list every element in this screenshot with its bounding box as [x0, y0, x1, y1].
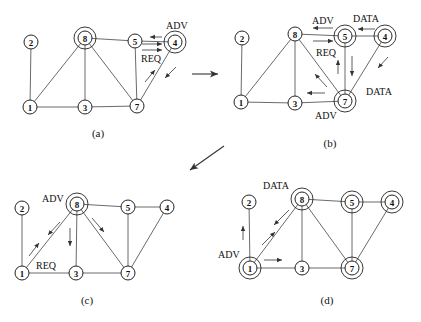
message-label-req: REQ: [36, 260, 57, 271]
node-label: 5: [350, 198, 355, 208]
edge-8-5: [295, 34, 345, 36]
node-label: 3: [293, 99, 298, 109]
node-label: 2: [20, 204, 25, 214]
node-label: 2: [29, 38, 34, 48]
message-arrow-icon: [145, 70, 155, 82]
edge-8-3: [76, 204, 77, 273]
node-label: 1: [248, 264, 253, 274]
node-label: 4: [173, 38, 178, 48]
message-arrow-icon: [92, 218, 104, 232]
node-2: 2: [15, 201, 29, 215]
node-3: 3: [288, 96, 302, 110]
node-label: 4: [165, 203, 170, 213]
message-arrow-icon: [274, 210, 289, 225]
node-7: 7: [130, 99, 144, 113]
node-1: 1: [23, 100, 37, 114]
node-2: 2: [24, 35, 38, 49]
edge-8-7: [302, 199, 352, 268]
message-arrow-icon: [378, 57, 388, 68]
node-label: 1: [239, 98, 244, 108]
node-label: 1: [28, 103, 33, 113]
edge-8-7: [77, 204, 128, 273]
node-5: 5: [128, 34, 142, 48]
node-1: 1: [234, 95, 248, 109]
node-3: 3: [78, 100, 92, 114]
message-label-adv: ADV: [312, 15, 334, 26]
panel-d: 1234578DATAADV(d): [218, 180, 403, 307]
node-label: 3: [74, 269, 79, 279]
node-label: 5: [133, 37, 138, 47]
edge-4-7: [128, 207, 167, 273]
node-2: 2: [242, 195, 256, 209]
panels-layer: 1234578ADVREQ(a)1234578ADVDATAREQDATAADV…: [15, 13, 403, 307]
panel-caption: (d): [321, 294, 334, 307]
edge-1-8: [30, 38, 85, 107]
node-label: 8: [293, 30, 298, 40]
node-label: 1: [20, 269, 25, 279]
edge-1-8: [250, 199, 302, 268]
message-label-data: DATA: [366, 86, 393, 97]
edge-3-7: [295, 101, 345, 103]
panel-c: 1234578ADVREQ(c): [15, 193, 174, 307]
node-1: 1: [15, 266, 29, 280]
node-label: 2: [247, 198, 252, 208]
message-label-adv: ADV: [42, 193, 64, 204]
node-label: 8: [75, 200, 80, 210]
edge-8-5: [302, 199, 352, 202]
node-5: 5: [121, 200, 135, 214]
edge-3-7: [85, 106, 137, 107]
edge-1-8: [241, 34, 295, 102]
node-label: 7: [343, 97, 348, 107]
node-label: 5: [343, 32, 348, 42]
node-label: 4: [390, 198, 395, 208]
node-label: 8: [83, 34, 88, 44]
node-label: 4: [383, 32, 388, 42]
message-label-adv: ADV: [166, 20, 188, 31]
message-label-req: REQ: [141, 53, 162, 64]
node-label: 7: [135, 102, 140, 112]
node-label: 3: [300, 264, 305, 274]
edge-1-2: [241, 38, 242, 102]
message-label-data: DATA: [353, 13, 380, 24]
message-arrow-icon: [315, 74, 327, 87]
node-7: 7: [121, 266, 135, 280]
panel-a: 1234578ADVREQ(a): [23, 20, 188, 140]
network-diagram: 1234578ADVREQ(a)1234578ADVDATAREQDATAADV…: [0, 0, 421, 322]
message-arrow-icon: [165, 67, 176, 78]
node-label: 2: [240, 34, 245, 44]
message-label-data: DATA: [263, 180, 290, 191]
edge-1-2: [249, 202, 250, 268]
message-label-adv: ADV: [218, 249, 240, 260]
node-label: 8: [300, 195, 305, 205]
panel-caption: (a): [92, 127, 105, 140]
transition-arrow-icon-b-to-c: [190, 146, 224, 170]
node-label: 3: [83, 103, 88, 113]
node-3: 3: [69, 266, 83, 280]
node-label: 5: [126, 203, 131, 213]
transition-arrows: [190, 74, 224, 170]
panel-caption: (b): [324, 137, 337, 150]
edge-1-2: [30, 42, 31, 107]
node-2: 2: [235, 31, 249, 45]
message-label-req: REQ: [316, 47, 337, 58]
edge-5-7: [135, 41, 137, 106]
node-3: 3: [295, 261, 309, 275]
edge-8-7: [85, 38, 137, 106]
edge-8-5: [85, 38, 135, 41]
edge-8-5: [77, 204, 128, 207]
node-8: 8: [288, 27, 302, 41]
edge-4-7: [352, 202, 392, 268]
message-label-adv: ADV: [315, 110, 337, 121]
node-4: 4: [160, 200, 174, 214]
panel-b: 1234578ADVDATAREQDATAADV(b): [234, 13, 396, 150]
node-label: 7: [350, 264, 355, 274]
node-label: 7: [126, 269, 131, 279]
panel-caption: (c): [81, 294, 94, 307]
edge-1-3: [241, 102, 295, 103]
